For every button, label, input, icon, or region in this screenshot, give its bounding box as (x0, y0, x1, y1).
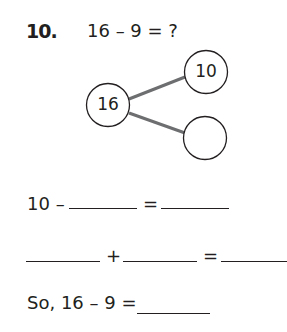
step1-blank-result[interactable] (161, 208, 229, 209)
bond-line-bottom (129, 113, 185, 133)
step2-equals: = (203, 245, 218, 266)
step3-conclusion: So, 16 – 9 = (27, 292, 137, 313)
part-circle-bottom[interactable] (184, 117, 227, 160)
step2-plus: + (106, 245, 121, 266)
part-value-top: 10 (184, 61, 228, 81)
step1-blank-subtrahend[interactable] (69, 208, 137, 209)
step2-blank-addend1[interactable] (26, 261, 100, 262)
step1-equals: = (143, 193, 158, 214)
step2-blank-addend2[interactable] (123, 261, 197, 262)
whole-value: 16 (86, 94, 130, 114)
number-bond-diagram (0, 0, 287, 170)
step3-blank-answer[interactable] (137, 313, 210, 314)
bond-line-top (129, 77, 185, 99)
step2-blank-sum[interactable] (221, 261, 287, 262)
step1-start: 10 – (27, 193, 65, 214)
